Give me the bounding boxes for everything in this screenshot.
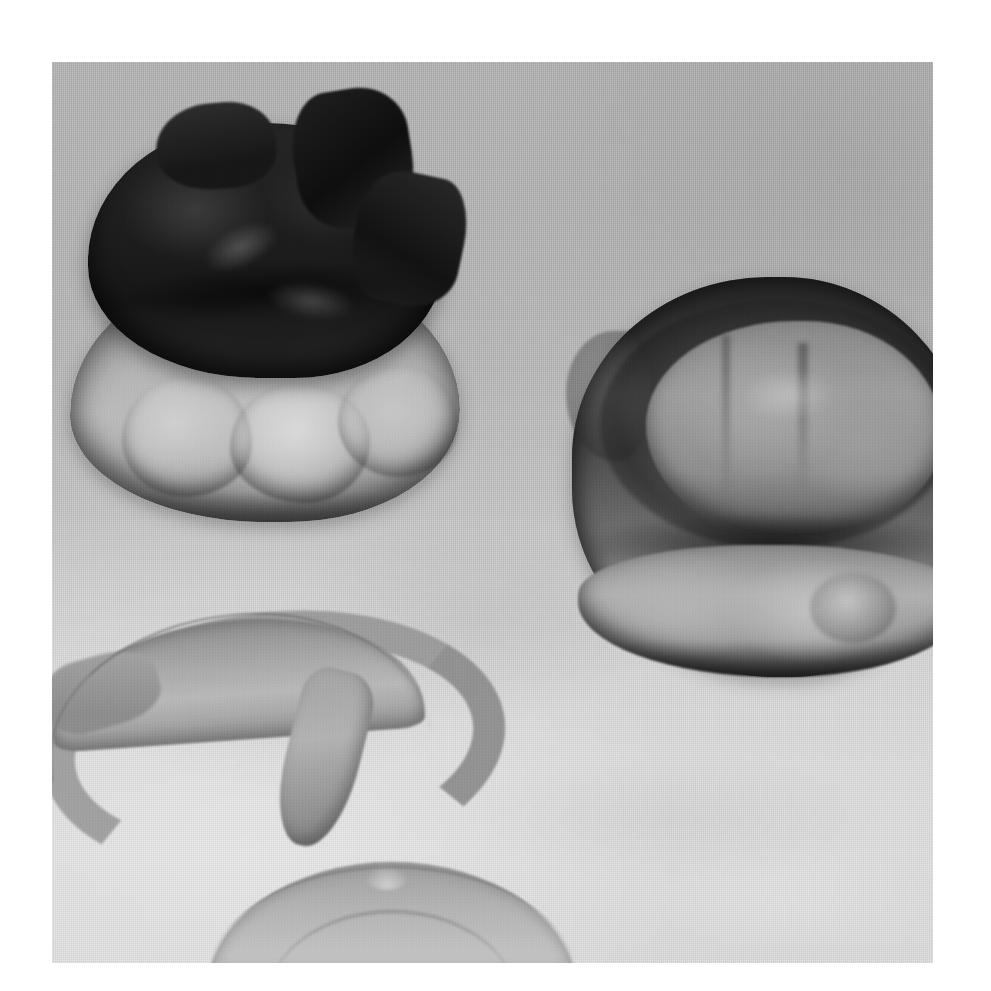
- film-grain: [52, 62, 933, 963]
- page-root: Upper-left resected mass with dark hemor…: [0, 0, 991, 991]
- specimen-photograph: Upper-left resected mass with dark hemor…: [52, 62, 933, 963]
